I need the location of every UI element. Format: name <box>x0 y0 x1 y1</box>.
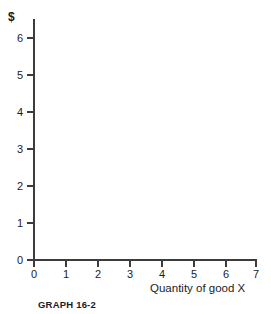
y-tick-label-6: 6 <box>9 33 23 44</box>
y-tick-3 <box>27 148 33 150</box>
x-tick-5 <box>193 261 195 267</box>
x-tick-label-4: 4 <box>155 269 169 280</box>
y-axis-title: $ <box>8 11 15 23</box>
y-tick-1 <box>27 222 33 224</box>
x-tick-3 <box>129 261 131 267</box>
plot-area <box>35 19 257 259</box>
y-tick-label-2: 2 <box>9 181 23 192</box>
x-tick-4 <box>161 261 163 267</box>
y-tick-6 <box>27 37 33 39</box>
y-tick-label-5: 5 <box>9 70 23 81</box>
y-tick-label-3: 3 <box>9 144 23 155</box>
x-tick-label-6: 6 <box>219 269 233 280</box>
graph-caption: GRAPH 16-2 <box>38 300 96 310</box>
x-tick-label-1: 1 <box>59 269 73 280</box>
y-tick-label-1: 1 <box>9 218 23 229</box>
x-axis-title: Quantity of good X <box>150 282 245 294</box>
y-tick-2 <box>27 185 33 187</box>
y-tick-label-4: 4 <box>9 107 23 118</box>
graph-figure: $ 6 5 4 3 2 1 0 0 1 2 3 4 5 6 7 Quantity… <box>0 0 271 314</box>
x-tick-0 <box>33 261 35 267</box>
x-tick-6 <box>225 261 227 267</box>
x-tick-label-0: 0 <box>27 269 41 280</box>
x-tick-label-3: 3 <box>123 269 137 280</box>
y-tick-label-0: 0 <box>9 255 23 266</box>
x-tick-label-7: 7 <box>249 269 263 280</box>
x-tick-7 <box>255 261 257 267</box>
y-tick-5 <box>27 74 33 76</box>
x-tick-label-5: 5 <box>187 269 201 280</box>
x-tick-1 <box>65 261 67 267</box>
x-tick-label-2: 2 <box>91 269 105 280</box>
y-tick-4 <box>27 111 33 113</box>
x-tick-2 <box>97 261 99 267</box>
